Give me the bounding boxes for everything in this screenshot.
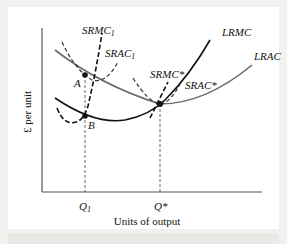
point-b [82,113,88,119]
point-b-label: B [88,119,95,131]
qstar-tick-label: Q* [154,200,168,212]
y-axis-title: £ per unit [21,91,33,133]
x-axis-title: Units of output [114,215,181,227]
point-a-label: A [73,77,81,89]
point-tangent [157,101,163,107]
srac-star-label: SRAC* [185,79,217,91]
srmc1-label: SRMC1 [82,24,115,38]
lrmc-label: LRMC [221,26,252,38]
srac1-label: SRAC1 [105,47,135,61]
lrac-label: LRAC [253,50,282,62]
srmc-star-label: SRMC* [150,68,185,80]
q1-tick-label: Q1 [79,200,91,214]
cost-curves-diagram: LRMC LRAC SRMC1 SRAC1 SRMC* SRAC* A B Q1… [0,0,287,244]
point-a [82,72,88,78]
